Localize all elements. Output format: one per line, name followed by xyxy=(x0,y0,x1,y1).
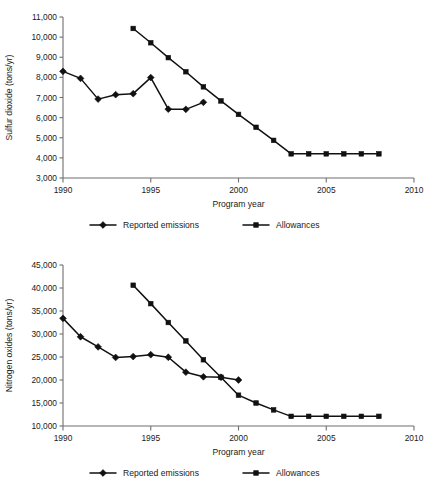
data-point-square xyxy=(377,414,382,419)
series-allowances xyxy=(131,283,381,419)
x-axis-title: Program year xyxy=(212,199,264,209)
series-polyline xyxy=(133,285,379,416)
data-point-square xyxy=(131,26,136,31)
x-axis-title: Program year xyxy=(212,447,264,457)
y-tick-label: 4,000 xyxy=(36,153,57,163)
data-point-diamond xyxy=(112,91,119,98)
x-tick-label: 2005 xyxy=(317,185,336,195)
x-tick-label: 1990 xyxy=(54,433,73,443)
legend-item-allowances: Allowances xyxy=(243,468,319,478)
legend-label: Allowances xyxy=(276,220,319,230)
x-tick-label: 2010 xyxy=(405,433,424,443)
data-point-square xyxy=(236,112,241,117)
data-point-square xyxy=(359,152,364,157)
data-point-diamond xyxy=(95,343,102,350)
legend-label: Reported emissions xyxy=(123,468,199,478)
data-point-square xyxy=(342,152,347,157)
y-tick-label: 5,000 xyxy=(36,133,57,143)
legend-item-reported-emissions: Reported emissions xyxy=(90,468,199,478)
data-point-diamond xyxy=(200,373,207,380)
data-point-square xyxy=(359,414,364,419)
legend-label: Allowances xyxy=(276,468,319,478)
chart-nitrogen-oxides: 10,00015,00020,00025,00030,00035,00040,0… xyxy=(0,248,425,496)
legend-label: Reported emissions xyxy=(123,220,199,230)
data-point-square xyxy=(306,152,311,157)
y-tick-label: 15,000 xyxy=(31,398,57,408)
y-tick-label: 35,000 xyxy=(31,306,57,316)
y-tick-label: 10,000 xyxy=(31,32,57,42)
data-point-square xyxy=(166,320,171,325)
x-tick-label: 2010 xyxy=(405,185,424,195)
y-tick-label: 45,000 xyxy=(31,260,57,270)
chart-sulfur-dioxide: 3,0004,0005,0006,0007,0008,0009,00010,00… xyxy=(0,0,425,248)
data-point-square xyxy=(184,69,189,74)
y-axis-title: Nitrogen oxides (tons/yr) xyxy=(4,299,14,393)
data-point-square xyxy=(219,375,224,380)
data-point-square xyxy=(289,414,294,419)
data-point-square xyxy=(184,339,189,344)
data-point-square xyxy=(148,301,153,306)
data-point-square xyxy=(219,99,224,104)
legend-marker-square xyxy=(254,471,259,476)
data-point-square xyxy=(236,393,241,398)
data-point-square xyxy=(254,125,259,130)
data-point-square xyxy=(254,401,259,406)
data-point-diamond xyxy=(60,68,67,75)
series-reported-emissions xyxy=(60,68,207,113)
legend-item-allowances: Allowances xyxy=(243,220,319,230)
y-tick-label: 3,000 xyxy=(36,173,57,183)
data-point-diamond xyxy=(235,377,242,384)
data-point-square xyxy=(271,408,276,413)
data-point-square xyxy=(324,152,329,157)
y-tick-label: 25,000 xyxy=(31,352,57,362)
y-tick-label: 9,000 xyxy=(36,52,57,62)
series-allowances xyxy=(131,26,381,156)
y-tick-label: 11,000 xyxy=(32,12,57,22)
data-point-square xyxy=(201,357,206,362)
y-tick-label: 40,000 xyxy=(31,283,57,293)
legend-marker-square xyxy=(254,223,259,228)
series-polyline xyxy=(133,28,379,153)
y-tick-label: 20,000 xyxy=(31,375,57,385)
y-axis-title: Sulfur dioxide (tons/yr) xyxy=(4,54,14,140)
data-point-diamond xyxy=(147,351,154,358)
data-point-square xyxy=(201,85,206,90)
data-point-square xyxy=(306,414,311,419)
series-polyline xyxy=(63,318,239,380)
x-tick-label: 1995 xyxy=(141,185,160,195)
data-point-square xyxy=(289,152,294,157)
x-tick-label: 2000 xyxy=(229,433,248,443)
y-tick-label: 8,000 xyxy=(36,72,57,82)
data-point-diamond xyxy=(165,106,172,113)
data-point-diamond xyxy=(112,354,119,361)
data-point-diamond xyxy=(130,353,137,360)
x-tick-label: 1995 xyxy=(141,433,160,443)
x-tick-label: 1990 xyxy=(54,185,73,195)
data-point-square xyxy=(148,40,153,45)
legend-marker-diamond xyxy=(100,470,107,477)
data-point-square xyxy=(324,414,329,419)
figure-sulfur-dioxide: 3,0004,0005,0006,0007,0008,0009,00010,00… xyxy=(0,0,425,248)
data-point-square xyxy=(342,414,347,419)
legend-marker-diamond xyxy=(100,222,107,229)
data-point-diamond xyxy=(200,99,207,106)
y-tick-label: 10,000 xyxy=(31,421,57,431)
data-point-square xyxy=(131,283,136,288)
y-tick-label: 30,000 xyxy=(31,329,57,339)
y-tick-label: 6,000 xyxy=(36,113,57,123)
figure-nitrogen-oxides: 10,00015,00020,00025,00030,00035,00040,0… xyxy=(0,248,425,496)
y-tick-label: 7,000 xyxy=(36,93,57,103)
series-reported-emissions xyxy=(60,315,242,383)
x-tick-label: 2005 xyxy=(317,433,336,443)
data-point-square xyxy=(377,152,382,157)
legend-item-reported-emissions: Reported emissions xyxy=(90,220,199,230)
x-tick-label: 2000 xyxy=(229,185,248,195)
data-point-square xyxy=(166,55,171,60)
data-point-diamond xyxy=(182,106,189,113)
data-point-square xyxy=(271,138,276,143)
